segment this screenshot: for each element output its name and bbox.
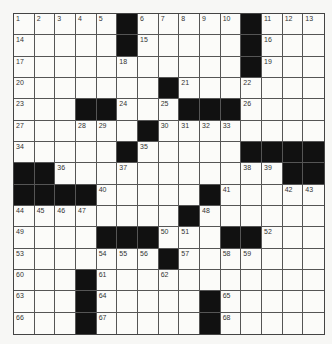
grid-cell[interactable] bbox=[55, 313, 76, 334]
grid-cell[interactable] bbox=[262, 78, 283, 99]
grid-cell[interactable] bbox=[35, 99, 56, 120]
grid-cell[interactable] bbox=[76, 78, 97, 99]
grid-cell[interactable]: 14 bbox=[14, 35, 35, 56]
grid-cell[interactable] bbox=[159, 163, 180, 184]
grid-cell[interactable] bbox=[55, 227, 76, 248]
grid-cell[interactable] bbox=[117, 313, 138, 334]
grid-cell[interactable] bbox=[138, 206, 159, 227]
grid-cell[interactable] bbox=[179, 35, 200, 56]
grid-cell[interactable] bbox=[303, 270, 324, 291]
grid-cell[interactable]: 55 bbox=[117, 249, 138, 270]
grid-cell[interactable] bbox=[303, 313, 324, 334]
grid-cell[interactable]: 62 bbox=[159, 270, 180, 291]
grid-cell[interactable]: 31 bbox=[179, 121, 200, 142]
grid-cell[interactable] bbox=[283, 270, 304, 291]
grid-cell[interactable]: 52 bbox=[262, 227, 283, 248]
grid-cell[interactable] bbox=[221, 270, 242, 291]
grid-cell[interactable] bbox=[159, 291, 180, 312]
grid-cell[interactable]: 57 bbox=[179, 249, 200, 270]
grid-cell[interactable]: 64 bbox=[97, 291, 118, 312]
grid-cell[interactable] bbox=[97, 35, 118, 56]
grid-cell[interactable] bbox=[283, 121, 304, 142]
grid-cell[interactable] bbox=[179, 185, 200, 206]
grid-cell[interactable]: 25 bbox=[159, 99, 180, 120]
grid-cell[interactable]: 27 bbox=[14, 121, 35, 142]
grid-cell[interactable] bbox=[97, 142, 118, 163]
grid-cell[interactable]: 9 bbox=[200, 14, 221, 35]
grid-cell[interactable] bbox=[241, 270, 262, 291]
grid-cell[interactable] bbox=[97, 163, 118, 184]
grid-cell[interactable] bbox=[97, 78, 118, 99]
grid-cell[interactable] bbox=[283, 206, 304, 227]
grid-cell[interactable] bbox=[76, 57, 97, 78]
grid-cell[interactable]: 66 bbox=[14, 313, 35, 334]
grid-cell[interactable] bbox=[76, 142, 97, 163]
grid-cell[interactable] bbox=[303, 78, 324, 99]
grid-cell[interactable]: 60 bbox=[14, 270, 35, 291]
grid-cell[interactable]: 45 bbox=[35, 206, 56, 227]
grid-cell[interactable]: 22 bbox=[241, 78, 262, 99]
grid-cell[interactable]: 18 bbox=[117, 57, 138, 78]
grid-cell[interactable] bbox=[262, 291, 283, 312]
grid-cell[interactable]: 11 bbox=[262, 14, 283, 35]
grid-cell[interactable]: 8 bbox=[179, 14, 200, 35]
grid-cell[interactable] bbox=[138, 185, 159, 206]
grid-cell[interactable]: 10 bbox=[221, 14, 242, 35]
grid-cell[interactable] bbox=[179, 291, 200, 312]
grid-cell[interactable] bbox=[55, 99, 76, 120]
grid-cell[interactable] bbox=[35, 291, 56, 312]
grid-cell[interactable]: 53 bbox=[14, 249, 35, 270]
grid-cell[interactable]: 58 bbox=[221, 249, 242, 270]
grid-cell[interactable] bbox=[35, 35, 56, 56]
grid-cell[interactable]: 40 bbox=[97, 185, 118, 206]
grid-cell[interactable]: 39 bbox=[262, 163, 283, 184]
grid-cell[interactable] bbox=[159, 185, 180, 206]
grid-cell[interactable] bbox=[283, 57, 304, 78]
grid-cell[interactable] bbox=[35, 227, 56, 248]
grid-cell[interactable]: 21 bbox=[179, 78, 200, 99]
grid-cell[interactable]: 68 bbox=[221, 313, 242, 334]
grid-cell[interactable] bbox=[55, 291, 76, 312]
grid-cell[interactable]: 17 bbox=[14, 57, 35, 78]
grid-cell[interactable] bbox=[241, 313, 262, 334]
grid-cell[interactable] bbox=[55, 121, 76, 142]
grid-cell[interactable] bbox=[200, 57, 221, 78]
grid-cell[interactable]: 1 bbox=[14, 14, 35, 35]
grid-cell[interactable]: 43 bbox=[303, 185, 324, 206]
grid-cell[interactable] bbox=[159, 313, 180, 334]
grid-cell[interactable]: 30 bbox=[159, 121, 180, 142]
grid-cell[interactable] bbox=[76, 35, 97, 56]
grid-cell[interactable] bbox=[221, 78, 242, 99]
grid-cell[interactable] bbox=[200, 249, 221, 270]
grid-cell[interactable] bbox=[200, 163, 221, 184]
grid-cell[interactable] bbox=[117, 270, 138, 291]
grid-cell[interactable]: 48 bbox=[200, 206, 221, 227]
grid-cell[interactable] bbox=[221, 163, 242, 184]
grid-cell[interactable] bbox=[200, 142, 221, 163]
grid-cell[interactable]: 41 bbox=[221, 185, 242, 206]
grid-cell[interactable] bbox=[262, 206, 283, 227]
grid-cell[interactable] bbox=[200, 227, 221, 248]
grid-cell[interactable] bbox=[97, 206, 118, 227]
grid-cell[interactable]: 59 bbox=[241, 249, 262, 270]
grid-cell[interactable] bbox=[159, 35, 180, 56]
grid-cell[interactable] bbox=[55, 57, 76, 78]
grid-cell[interactable] bbox=[76, 163, 97, 184]
grid-cell[interactable] bbox=[303, 249, 324, 270]
grid-cell[interactable]: 7 bbox=[159, 14, 180, 35]
grid-cell[interactable] bbox=[303, 35, 324, 56]
grid-cell[interactable]: 19 bbox=[262, 57, 283, 78]
grid-cell[interactable]: 47 bbox=[76, 206, 97, 227]
grid-cell[interactable] bbox=[159, 142, 180, 163]
grid-cell[interactable] bbox=[221, 57, 242, 78]
grid-cell[interactable] bbox=[35, 78, 56, 99]
grid-cell[interactable] bbox=[76, 227, 97, 248]
grid-cell[interactable] bbox=[179, 142, 200, 163]
grid-cell[interactable]: 4 bbox=[76, 14, 97, 35]
grid-cell[interactable]: 16 bbox=[262, 35, 283, 56]
grid-cell[interactable] bbox=[221, 142, 242, 163]
grid-cell[interactable]: 54 bbox=[97, 249, 118, 270]
grid-cell[interactable]: 51 bbox=[179, 227, 200, 248]
grid-cell[interactable] bbox=[303, 99, 324, 120]
grid-cell[interactable]: 46 bbox=[55, 206, 76, 227]
